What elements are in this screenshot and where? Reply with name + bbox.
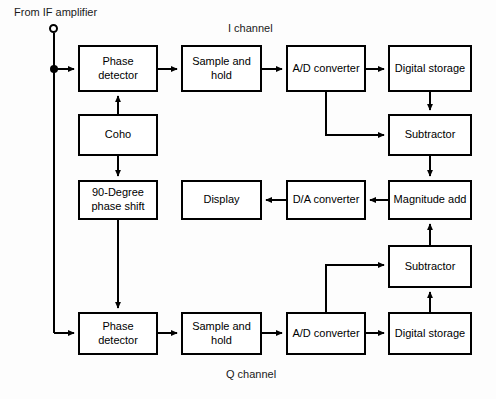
i-channel-label: I channel [228,22,273,34]
block-phase-detector-q[interactable]: Phase detector [78,312,158,355]
block-sample-and-hold-q[interactable]: Sample and hold [181,312,262,355]
block-magnitude-add-label: Magnitude add [394,193,467,207]
block-da-converter[interactable]: D/A converter [286,180,366,220]
block-subtractor-q[interactable]: Subtractor [388,245,472,288]
block-phase-detector-i[interactable]: Phase detector [78,45,158,92]
block-phase-detector-i-label: Phase detector [98,55,138,83]
block-ad-converter-i[interactable]: A/D converter [286,45,366,92]
block-sample-and-hold-q-label: Sample and hold [192,320,251,348]
source-label: From IF amplifier [14,6,97,18]
block-coho-label: Coho [105,128,131,142]
wire-ad-i-to-sub-i [326,92,384,135]
block-90-degree-phase-shift[interactable]: 90-Degree phase shift [78,180,158,220]
block-display[interactable]: Display [181,180,262,220]
if-amplifier-terminal-icon [49,24,58,33]
block-subtractor-i[interactable]: Subtractor [388,114,472,156]
block-90-degree-phase-shift-label: 90-Degree phase shift [91,186,144,214]
block-sample-and-hold-i[interactable]: Sample and hold [181,45,262,92]
block-digital-storage-i[interactable]: Digital storage [388,45,472,92]
block-ad-converter-i-label: A/D converter [292,62,359,76]
block-magnitude-add[interactable]: Magnitude add [388,180,472,220]
block-digital-storage-i-label: Digital storage [395,62,465,76]
block-ad-converter-q[interactable]: A/D converter [286,312,366,355]
q-channel-label: Q channel [226,368,276,380]
block-display-label: Display [203,193,239,207]
block-digital-storage-q[interactable]: Digital storage [388,312,472,355]
block-subtractor-i-label: Subtractor [405,128,456,142]
block-sample-and-hold-i-label: Sample and hold [192,55,251,83]
if-bus-junction-dot [50,65,58,73]
block-subtractor-q-label: Subtractor [405,260,456,274]
block-coho[interactable]: Coho [78,114,158,156]
block-ad-converter-q-label: A/D converter [292,327,359,341]
block-diagram-canvas: From IF amplifier I channel Q channel Ph… [0,0,496,399]
block-phase-detector-q-label: Phase detector [98,320,138,348]
wire-ad-q-to-sub-q [326,265,384,312]
block-digital-storage-q-label: Digital storage [395,327,465,341]
block-da-converter-label: D/A converter [293,193,360,207]
